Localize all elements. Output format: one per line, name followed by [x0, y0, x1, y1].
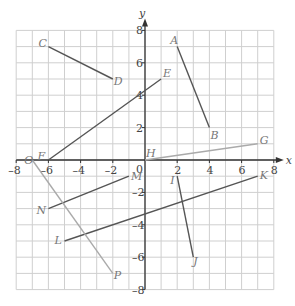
y-tick-label: –4 — [132, 219, 145, 232]
point-label-k: K — [259, 169, 269, 182]
point-label-p: P — [113, 269, 122, 282]
y-tick-label: –8 — [132, 284, 145, 297]
x-axis-label: x — [286, 154, 293, 167]
x-tick-label: 6 — [239, 164, 246, 177]
x-tick-label: –4 — [73, 164, 86, 177]
y-tick-label: 2 — [136, 122, 143, 135]
point-label-h: H — [145, 147, 156, 160]
segment-op — [32, 160, 113, 273]
segment-gh — [145, 144, 258, 160]
point-label-b: B — [209, 129, 218, 142]
point-label-n: N — [35, 204, 46, 217]
y-tick-label: 6 — [136, 57, 143, 70]
point-label-c: C — [38, 37, 47, 50]
x-tick-label: 8 — [271, 164, 278, 177]
point-label-f: F — [36, 150, 45, 163]
segment-ij — [177, 176, 193, 257]
x-tick-label: –8 — [8, 164, 21, 177]
segment-ef — [48, 79, 161, 160]
x-tick-label: 4 — [206, 164, 213, 177]
x-tick-label: –2 — [105, 164, 118, 177]
point-label-l: L — [54, 234, 62, 247]
point-label-i: I — [169, 174, 175, 187]
point-label-j: J — [191, 255, 198, 268]
point-labels: ABCDEFGHIJKLMNOP — [24, 34, 268, 283]
y-tick-label: –2 — [132, 186, 145, 199]
y-tick-label: –6 — [132, 251, 145, 264]
point-label-e: E — [162, 67, 171, 80]
point-label-d: D — [113, 75, 123, 88]
point-label-g: G — [260, 134, 269, 147]
x-axis-arrow-icon — [276, 157, 284, 163]
y-tick-label: 8 — [136, 24, 143, 37]
point-label-a: A — [169, 34, 178, 47]
point-label-m: M — [130, 170, 143, 183]
y-axis-label: y — [138, 7, 146, 20]
point-label-o: O — [24, 154, 33, 167]
coordinate-grid: xy –8–6–4–2024688642–2–4–6–8 ABCDEFGHIJK… — [0, 0, 295, 306]
x-tick-label: 2 — [174, 164, 181, 177]
